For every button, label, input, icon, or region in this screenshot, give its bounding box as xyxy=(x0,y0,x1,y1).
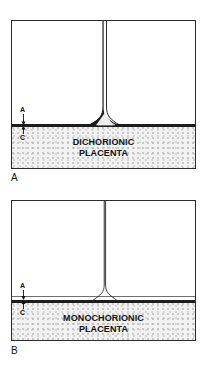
caption-line-1-monochorionic: MONOCHORIONIC xyxy=(12,313,195,324)
amnion-label-monochorionic: A xyxy=(20,282,25,289)
figure-root: A C DICHORIONIC PLACENTA A A xyxy=(0,0,209,370)
panel-letter-a: A xyxy=(11,172,18,183)
caption-monochorionic: MONOCHORIONIC PLACENTA xyxy=(12,313,195,334)
caption-line-1-dichorionic: DICHORIONIC xyxy=(12,137,195,148)
membrane-left-edge-dichorionic xyxy=(90,21,103,125)
panel-monochorionic: A C MONOCHORIONIC PLACENTA xyxy=(11,200,196,341)
chorion-arrow-head-dichorionic xyxy=(22,126,26,130)
membrane-right-edge-dichorionic xyxy=(107,21,121,125)
panel-dichorionic: A C DICHORIONIC PLACENTA xyxy=(11,20,196,169)
chorion-arrow-head-monochorionic xyxy=(22,300,26,304)
amnion-label-dichorionic: A xyxy=(20,106,25,113)
amnion-arrow-head-monochorionic xyxy=(22,296,26,300)
caption-dichorionic: DICHORIONIC PLACENTA xyxy=(12,137,195,158)
amnion-arrow-head-dichorionic xyxy=(22,122,26,126)
membrane-right-edge-monochorionic xyxy=(106,201,118,301)
panel-letter-b: B xyxy=(11,345,18,356)
caption-line-2-dichorionic: PLACENTA xyxy=(12,148,195,159)
caption-line-2-monochorionic: PLACENTA xyxy=(12,324,195,335)
membrane-left-edge-monochorionic xyxy=(93,201,105,301)
